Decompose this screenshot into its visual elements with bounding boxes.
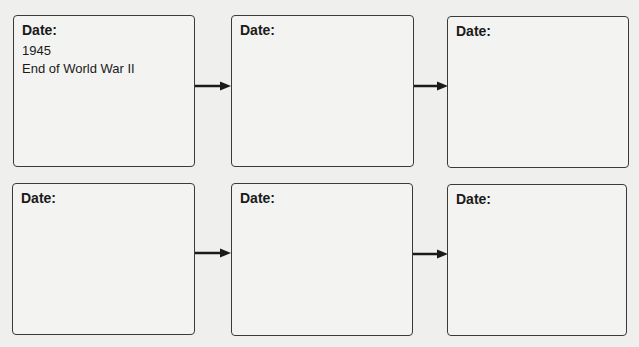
- arrow-right-icon: [195, 81, 231, 91]
- arrow-right-icon: [413, 249, 448, 259]
- arrow-right-icon: [195, 248, 231, 258]
- event-year: 1945: [22, 42, 186, 60]
- timeline-box-4[interactable]: Date:: [12, 183, 195, 335]
- timeline-box-5[interactable]: Date:: [231, 183, 413, 336]
- timeline-box-1[interactable]: Date: 1945 End of World War II: [13, 15, 195, 167]
- date-label: Date:: [456, 23, 620, 39]
- date-label: Date:: [21, 190, 186, 206]
- arrow-right-icon: [414, 81, 448, 91]
- date-label: Date:: [240, 22, 405, 38]
- date-label: Date:: [456, 191, 618, 207]
- event-description: End of World War II: [22, 60, 186, 78]
- timeline-box-3[interactable]: Date:: [447, 16, 629, 168]
- date-label: Date:: [22, 22, 186, 38]
- timeline-box-2[interactable]: Date:: [231, 15, 414, 167]
- timeline-box-6[interactable]: Date:: [447, 184, 627, 336]
- date-label: Date:: [240, 190, 404, 206]
